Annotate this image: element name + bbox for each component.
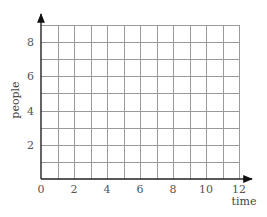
y-tick-label: 4: [27, 105, 34, 118]
x-axis-title: time: [232, 195, 257, 208]
y-tick-label: 8: [27, 36, 34, 49]
x-tick-label: 6: [137, 183, 144, 196]
x-tick-label: 8: [170, 183, 177, 196]
x-tick-label: 10: [199, 183, 213, 196]
x-tick-label: 0: [38, 183, 45, 196]
y-tick-label: 6: [27, 70, 34, 83]
x-tick-labels: 024681012: [38, 183, 247, 196]
chart-canvas: 024681012 2468 time people: [0, 0, 267, 217]
grid-lines: [41, 25, 240, 179]
x-tick-label: 2: [71, 183, 78, 196]
y-tick-label: 2: [27, 139, 34, 152]
y-tick-labels: 2468: [27, 36, 34, 152]
y-axis-title: people: [9, 81, 22, 118]
x-tick-label: 4: [104, 183, 111, 196]
axes: [41, 14, 252, 179]
